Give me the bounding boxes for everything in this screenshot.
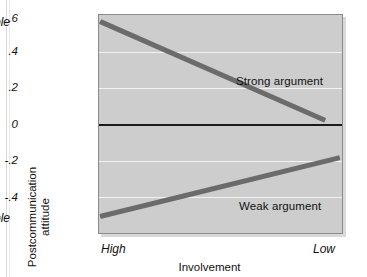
y-axis-title-line2: attitude <box>39 137 52 277</box>
gridline-0.4 <box>99 52 342 53</box>
y-tick-label-3: 0 <box>12 118 18 130</box>
series-label-weak-argument: Weak argument <box>239 200 321 212</box>
chart-figure: Strong argument Weak argument Favorable … <box>0 0 367 277</box>
page-gutter-rule-left <box>6 0 7 277</box>
plot-area: Strong argument Weak argument <box>98 14 343 234</box>
y-axis-title: Postcommunication attitude <box>26 137 52 277</box>
y-tick-label-1: .4 <box>8 45 18 57</box>
gridline--0.2 <box>99 161 342 162</box>
page-gutter-rule-right <box>9 0 10 277</box>
gridline--0.4 <box>99 197 342 198</box>
x-tick-label-low: Low <box>313 242 335 256</box>
zero-axis-line <box>99 124 342 126</box>
y-axis-bottom-label: Unfavorable <box>0 211 10 225</box>
y-tick-label-0: .6 <box>8 12 18 24</box>
x-axis-title: Involvement <box>0 261 367 273</box>
y-tick-label-2: .2 <box>8 81 18 93</box>
y-tick-label-5: -.4 <box>5 191 18 203</box>
y-axis-title-line1: Postcommunication <box>26 137 39 277</box>
x-tick-label-high: High <box>101 242 126 256</box>
gridline-0.2 <box>99 88 342 89</box>
x-axis-title-text: Involvement <box>178 261 240 273</box>
series-label-strong-argument: Strong argument <box>236 75 323 87</box>
series-line-strong-argument <box>99 19 326 122</box>
y-tick-label-4: -.2 <box>5 154 18 166</box>
